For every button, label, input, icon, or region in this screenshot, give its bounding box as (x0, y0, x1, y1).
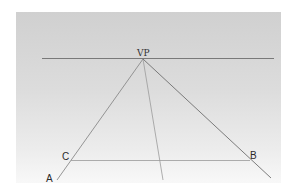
vanishing-point-label: VP (136, 48, 150, 58)
perspective-diagram: VP A C B (0, 0, 295, 193)
point-c-label: C (62, 151, 69, 162)
left-orthogonal-line (57, 59, 143, 180)
point-a-label: A (46, 173, 53, 184)
center-orthogonal-line (143, 59, 163, 180)
point-b-label: B (250, 150, 257, 161)
